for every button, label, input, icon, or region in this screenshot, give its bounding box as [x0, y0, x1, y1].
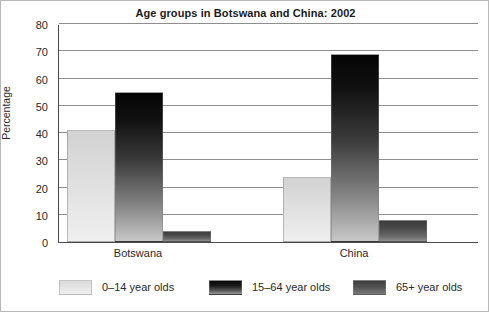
gridline-80: [59, 23, 478, 24]
chart-title: Age groups in Botswana and China: 2002: [1, 7, 489, 19]
y-tick-label-60: 60: [1, 74, 53, 86]
legend-swatch-icon-series-0: [59, 280, 92, 295]
x-axis-tick-labels: BotswanaChina: [58, 247, 478, 265]
legend-label-series-1: 15–64 year olds: [252, 281, 330, 293]
plot-area: [58, 25, 478, 243]
bar-china-series-2: [379, 220, 427, 242]
y-tick-label-30: 30: [1, 155, 53, 167]
y-tick-label-80: 80: [1, 19, 53, 31]
legend-item-series-2[interactable]: 65+ year olds: [353, 278, 462, 296]
x-tick-label-botswana: Botswana: [114, 247, 162, 259]
legend-label-series-2: 65+ year olds: [396, 281, 462, 293]
bar-china-series-0: [283, 177, 331, 242]
y-tick-label-0: 0: [1, 237, 53, 249]
legend-swatch-icon-series-1: [209, 280, 242, 295]
chart-legend: 0–14 year olds15–64 year olds65+ year ol…: [1, 278, 489, 300]
y-tick-label-20: 20: [1, 183, 53, 195]
legend-item-series-1[interactable]: 15–64 year olds: [209, 278, 330, 296]
chart-page: Age groups in Botswana and China: 2002 0…: [0, 0, 489, 312]
y-tick-label-70: 70: [1, 46, 53, 58]
bar-botswana-series-0: [67, 130, 115, 242]
legend-item-series-0[interactable]: 0–14 year olds: [59, 278, 174, 296]
x-tick-label-china: China: [340, 247, 369, 259]
bar-china-series-1: [331, 54, 379, 242]
bar-botswana-series-1: [115, 92, 163, 242]
legend-swatch-icon-series-2: [353, 280, 386, 295]
y-axis-title: Percentage: [0, 86, 12, 140]
legend-label-series-0: 0–14 year olds: [102, 281, 174, 293]
bars-layer: [59, 25, 478, 242]
bar-botswana-series-2: [163, 231, 211, 242]
y-tick-label-10: 10: [1, 210, 53, 222]
